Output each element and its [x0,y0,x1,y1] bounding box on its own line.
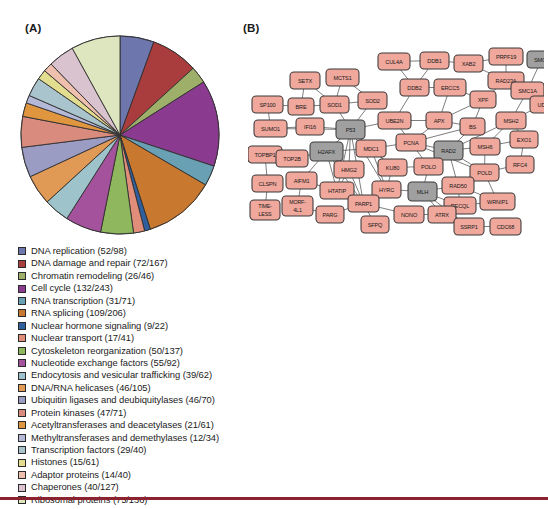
network-node[interactable]: BS [460,118,485,135]
network-node-label: PARG [323,212,338,218]
network-node[interactable]: SFPQ [361,216,389,233]
network-node[interactable]: PARG [316,206,344,223]
network-node[interactable]: RAD2 [434,141,463,160]
legend-item[interactable]: Acetyltransferases and deacetylases (21/… [18,419,246,431]
network-node[interactable]: WRNIP1 [480,193,515,210]
legend-swatch [18,297,26,305]
legend-label: Protein kinases (47/71) [31,407,126,419]
network-node-label: ATRX [435,212,449,218]
network-node[interactable]: MORF-4L1 [282,196,313,216]
legend-label: DNA damage and repair (72/167) [31,257,168,269]
network-node-label: DDB2 [407,85,421,91]
network-node-label: CLSPN [259,181,277,187]
network-node-label: POLO [421,164,437,170]
network-node[interactable]: PRPF19 [489,48,523,65]
network-node[interactable]: XPF [470,91,496,108]
legend-item[interactable]: RNA transcription (31/71) [18,295,246,307]
pie-slice-group: DNA replication (52/98)DNA damage and re… [21,36,219,234]
network-node-label: NONO [401,212,418,218]
legend-item[interactable]: Protein kinases (47/71) [18,407,246,419]
network-node[interactable]: SOD1 [320,96,349,113]
legend-item[interactable]: Adaptor proteins (14/40) [18,469,246,481]
network-node[interactable]: UDG [530,96,544,113]
legend-item[interactable]: Ubiquitin ligases and deubiquitylases (4… [18,394,246,406]
network-node[interactable]: MSH6 [470,138,500,155]
network-node[interactable]: SUMO1 [254,120,287,137]
network-node[interactable]: UBE2N [378,112,411,129]
network-node[interactable]: MLH [408,182,437,201]
network-node[interactable]: H2AFX [310,142,343,161]
legend-item[interactable]: DNA/RNA helicases (46/105) [18,382,246,394]
network-node[interactable]: MDC1 [356,140,386,157]
legend-item[interactable]: Endocytosis and vesicular trafficking (3… [18,369,246,381]
legend-item[interactable]: Cell cycle (132/243) [18,282,246,294]
network-node[interactable]: XAB2 [454,55,483,72]
network-node-label: UBE2N [386,118,404,124]
network-node[interactable]: SETX [290,72,320,89]
legend-label: RNA splicing (109/206) [31,307,126,319]
legend-item[interactable]: Chaperones (40/127) [18,481,246,493]
network-svg: SETXMCTS1CUL4ADDB1XAB2PRPF19SMC3SP100BRE… [248,34,544,259]
network-node-label: SP100 [259,102,275,108]
legend-item[interactable]: DNA damage and repair (72/167) [18,257,246,269]
network-node-label: P53 [346,127,356,133]
network-node[interactable]: P53 [336,120,365,139]
network-node[interactable]: NONO [394,206,424,223]
legend-swatch [18,247,26,255]
network-node[interactable]: RFC4 [506,156,534,173]
network-node[interactable]: TIME-LESS [250,200,280,220]
legend-label: DNA/RNA helicases (46/105) [31,382,151,394]
network-node-label: RAD50 [449,183,466,189]
network-node-label: MDC1 [363,146,378,152]
network-node-label: RAD2 [441,148,455,154]
legend-swatch [18,434,26,442]
network-node[interactable]: KU80 [378,159,407,176]
network-node-label: ERCC5 [441,85,459,91]
network-node[interactable]: MCTS1 [326,69,359,86]
legend-item[interactable]: Chromatin remodeling (26/46) [18,270,246,282]
network-node[interactable]: PCNA [396,134,426,151]
network-node[interactable]: HMG2 [334,161,364,178]
network-node[interactable]: CDC68 [490,218,521,235]
legend-item[interactable]: Cytoskeleton reorganization (50/137) [18,345,246,357]
panel-a-label: (A) [25,22,42,34]
network-node[interactable]: ERCC5 [434,79,466,96]
network-node[interactable]: IFI16 [296,118,324,135]
legend-item[interactable]: Nuclear hormone signaling (9/22) [18,320,246,332]
network-node-label: DDB1 [427,58,441,64]
legend-item[interactable]: RNA splicing (109/206) [18,307,246,319]
network-node-label: SUMO1 [261,126,280,132]
network-node[interactable]: RAD50 [442,177,474,194]
network-node[interactable]: MSH2 [496,112,526,129]
legend-item[interactable]: Methyltransferases and demethylases (12/… [18,432,246,444]
legend-item[interactable]: Nucleotide exchange factors (55/92) [18,357,246,369]
bottom-rule [0,497,548,500]
network-node[interactable]: PARP1 [348,195,379,212]
legend-swatch [18,384,26,392]
network-node[interactable]: POLD [470,164,499,181]
network-node[interactable]: SOD2 [358,92,387,109]
legend-item[interactable]: Histones (15/61) [18,456,246,468]
network-node[interactable]: TOP2B [276,150,308,167]
pie-chart-svg: DNA replication (52/98)DNA damage and re… [18,34,228,239]
network-node[interactable]: AIFM1 [286,172,317,189]
network-node[interactable]: APX [426,112,452,129]
network-node[interactable]: CUL4A [378,53,410,70]
network-node[interactable]: BRE [288,98,314,115]
network-node[interactable]: POLO [414,158,443,175]
legend-item[interactable]: Transcription factors (29/40) [18,444,246,456]
network-node[interactable]: SMC3 [527,51,544,68]
network-node-label: TOPBP1 [254,152,275,158]
legend-label: Endocytosis and vesicular trafficking (3… [31,369,212,381]
network-node[interactable]: SP100 [252,96,283,113]
network-node[interactable]: ATRX [428,206,456,223]
legend-swatch [18,459,26,467]
network-node[interactable]: DDB2 [400,79,429,96]
network-node[interactable]: SSRP1 [454,218,484,235]
legend-item[interactable]: DNA replication (52/98) [18,245,246,257]
network-node[interactable]: EXO1 [510,131,538,148]
legend-label: Chaperones (40/127) [31,481,119,493]
legend-item[interactable]: Nuclear transport (17/41) [18,332,246,344]
network-node[interactable]: CLSPN [252,175,283,192]
network-node[interactable]: DDB1 [420,52,449,69]
